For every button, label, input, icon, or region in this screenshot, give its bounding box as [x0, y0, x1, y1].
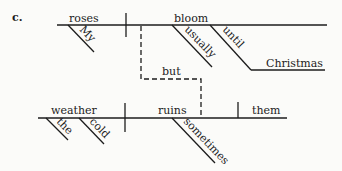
sentence-diagram: c. roses My bloom usually until Christma… — [0, 0, 342, 171]
prep-object-christmas: Christmas — [266, 57, 323, 70]
exercise-label: c. — [12, 11, 23, 24]
modifier-cold: cold — [87, 115, 113, 141]
conjunction-but: but — [162, 65, 181, 78]
clause-1: roses My bloom usually until Christmas — [57, 12, 327, 70]
modifier-my: My — [77, 23, 99, 45]
modifier-sometimes: sometimes — [181, 115, 232, 167]
clause-1-subject: roses — [69, 12, 99, 25]
clause-2-subject: weather — [51, 104, 97, 117]
clause-2-verb: ruins — [158, 104, 187, 117]
clause-2-object: them — [252, 104, 281, 117]
clause-2: weather the cold ruins sometimes them — [38, 102, 287, 167]
preposition-until: until — [220, 23, 247, 51]
